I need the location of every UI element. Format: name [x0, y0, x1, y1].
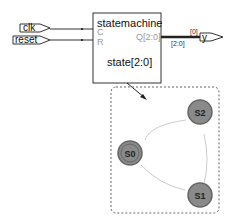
schematic: clk reset statemachine C R Q[2:0] state[… [0, 0, 237, 222]
svg-text:S0: S0 [124, 149, 135, 159]
svg-text:S2: S2 [194, 108, 205, 118]
svg-text:clk: clk [23, 22, 36, 33]
svg-text:[0]: [0] [190, 28, 198, 36]
svg-text:state[2:0]: state[2:0] [107, 56, 152, 68]
svg-text:statemachine: statemachine [97, 17, 162, 29]
state-s2[interactable]: S2 [188, 100, 212, 124]
output-port-y[interactable]: y [200, 32, 223, 43]
statemachine-block[interactable]: statemachine C R Q[2:0] state[2:0] [93, 13, 162, 83]
svg-text:R: R [97, 37, 104, 47]
svg-text:S1: S1 [194, 191, 205, 201]
state-s1[interactable]: S1 [188, 183, 212, 207]
svg-text:C: C [97, 27, 104, 37]
svg-text:[2:0]: [2:0] [171, 40, 185, 48]
input-port-clk[interactable]: clk [20, 22, 50, 33]
svg-text:reset: reset [15, 34, 37, 45]
input-port-reset[interactable]: reset [13, 34, 50, 45]
svg-text:y: y [202, 32, 207, 43]
state-s0[interactable]: S0 [118, 141, 142, 165]
svg-text:Q[2:0]: Q[2:0] [136, 32, 161, 42]
